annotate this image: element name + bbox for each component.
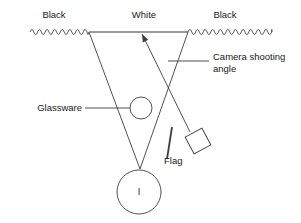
black-backdrop-left-wave [30,29,89,34]
black-backdrop-right-wave [188,29,272,34]
label-camera-shooting-angle-line1: Camera shooting [213,51,285,62]
frame-line-right [140,32,188,169]
label-black-left: Black [42,9,65,20]
label-white-center: White [132,9,156,20]
label-flag: Flag [164,155,182,166]
glassware-shape [130,97,152,119]
camera-ray-arrowhead-icon [142,34,148,43]
label-glassware: Glassware [37,102,82,113]
label-black-right: Black [213,9,236,20]
camera-icon [185,128,211,154]
diagram-svg: Black White Black Camera shooting angle … [0,0,301,223]
label-camera-shooting-angle-line2: angle [213,63,236,74]
label-bottle-mark: l [138,186,140,197]
camera-shooting-ray [142,34,190,132]
diagram-canvas: Black White Black Camera shooting angle … [0,0,301,223]
